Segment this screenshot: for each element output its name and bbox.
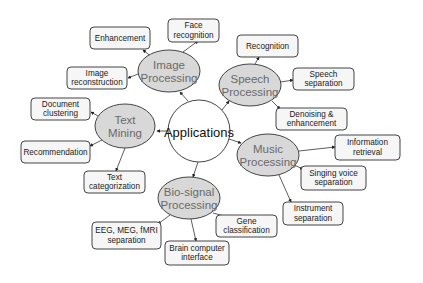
connector-arrow — [222, 101, 229, 110]
leaf-label: clustering — [43, 109, 78, 118]
leaf-label: Face — [184, 21, 203, 30]
leaf-label: Instrument — [294, 204, 333, 213]
category-node-image: ImageProcessing — [138, 50, 200, 92]
leaf-box-image-reconstruction: Imagereconstruction — [67, 67, 127, 89]
connector-arrow — [90, 140, 102, 146]
leaf-label: separation — [294, 214, 333, 223]
leaf-label: interface — [181, 253, 213, 262]
leaf-label: Text — [107, 173, 123, 182]
connector-arrow — [229, 139, 241, 143]
leaf-label: Singing voice — [309, 169, 358, 178]
leaf-label: EEG, MEG, fMRI — [95, 226, 157, 235]
category-label: Processing — [222, 86, 279, 98]
leaf-label: recognition — [173, 31, 214, 40]
category-label: Mining — [108, 127, 142, 139]
leaf-label: Enhancement — [95, 34, 146, 43]
leaf-label: separation — [304, 79, 343, 88]
category-node-biosignal: Bio-signalProcessing — [158, 177, 220, 219]
leaf-box-recognition: Recognition — [237, 35, 298, 57]
leaf-box-eeg: EEG, MEG, fMRIseparation — [92, 222, 161, 249]
applications-mind-map: EnhancementFacerecognitionImagereconstru… — [0, 0, 423, 283]
connector-arrow — [116, 148, 125, 171]
center-node: Applications — [164, 100, 235, 162]
category-label: Image — [153, 59, 185, 71]
connector-arrow — [299, 147, 335, 151]
connector-arrow — [183, 41, 198, 52]
category-label: Processing — [240, 156, 297, 168]
leaf-box-speech-separation: Speechseparation — [293, 68, 354, 90]
leaf-box-enhancement: Enhancement — [90, 27, 150, 49]
leaf-label: Speech — [310, 70, 338, 79]
leaf-label: Recommendation — [23, 148, 88, 157]
leaf-label: Document — [42, 100, 80, 109]
connector-arrow — [193, 162, 198, 177]
leaf-box-instrument-separation: Instrumentseparation — [283, 202, 343, 225]
connector-arrow — [128, 74, 138, 78]
leaf-label: retrieval — [353, 148, 382, 157]
category-label: Processing — [141, 72, 198, 84]
connector-arrow — [279, 175, 291, 202]
connector-arrow — [180, 92, 188, 101]
leaf-label: Denoising & — [289, 110, 334, 119]
leaf-label: Recognition — [246, 42, 290, 51]
connector-arrow — [91, 112, 98, 116]
leaf-box-text-categorization: Textcategorization — [84, 171, 145, 193]
category-node-text: TextMining — [95, 104, 155, 148]
leaf-box-document-clustering: Documentclustering — [31, 98, 90, 120]
leaf-box-singing-voice: Singing voiceseparation — [301, 166, 366, 190]
leaf-box-gene-classification: Geneclassification — [216, 215, 277, 237]
leaf-label: categorization — [89, 182, 140, 191]
connector-arrow — [281, 80, 293, 82]
center-label: Applications — [164, 125, 235, 140]
leaf-label: Information — [347, 138, 388, 147]
leaf-label: Gene — [236, 217, 256, 226]
category-label: Music — [253, 143, 283, 155]
leaf-box-recommendation: Recommendation — [21, 141, 90, 163]
connector-arrow — [191, 219, 196, 241]
leaf-box-face-recognition: Facerecognition — [168, 19, 219, 42]
category-node-music: MusicProcessing — [237, 134, 299, 176]
leaf-label: classification — [223, 226, 270, 235]
category-node-speech: SpeechProcessing — [219, 64, 281, 106]
category-label: Text — [114, 114, 136, 126]
leaf-label: reconstruction — [71, 78, 123, 87]
category-label: Processing — [161, 199, 218, 211]
category-label: Speech — [230, 73, 269, 85]
leaf-box-brain-computer: Brain computerinterface — [165, 241, 229, 265]
leaf-label: Image — [86, 69, 109, 78]
leaf-label: separation — [107, 236, 146, 245]
connector-arrow — [255, 57, 259, 64]
leaf-label: enhancement — [287, 119, 337, 128]
leaf-box-denoising: Denoising &enhancement — [276, 108, 347, 130]
leaf-label: Brain computer — [169, 244, 225, 253]
category-label: Bio-signal — [164, 186, 215, 198]
leaf-label: separation — [314, 178, 353, 187]
leaf-box-information-retrieval: Informationretrieval — [335, 135, 400, 160]
